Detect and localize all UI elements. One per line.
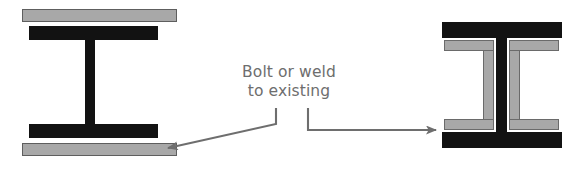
- leader-line-left: [168, 108, 276, 148]
- leader-line-right: [308, 108, 436, 130]
- beam-reinforcement-diagram: Bolt or weld to existing: [0, 0, 578, 177]
- leader-arrows: [0, 0, 578, 177]
